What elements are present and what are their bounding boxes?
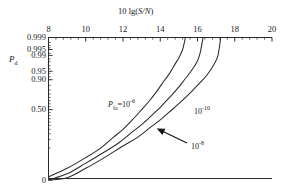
- x-axis-title: 10 lg(S/N): [118, 7, 153, 16]
- x-tick-label: 14: [148, 25, 172, 34]
- y-axis-ticks: [49, 38, 53, 181]
- pfa-1e-10-label-sup: -10: [202, 105, 210, 111]
- y-axis-title-sub: d: [15, 60, 18, 66]
- x-tick-label: 20: [260, 25, 282, 34]
- y-tick-label: 0.50: [4, 105, 46, 114]
- arrow-head: [158, 129, 165, 134]
- x-axis-title-suffix: ): [150, 6, 153, 16]
- pfa-1e-10-label-mid: 10: [194, 107, 202, 116]
- arrow-shaft: [162, 131, 187, 143]
- annotation-arrow-group: [158, 129, 187, 143]
- pfa-1e-8-label-sup: -8: [199, 140, 204, 146]
- pfa-1e-8-label-mid: 10: [191, 142, 199, 151]
- x-tick-label: 18: [223, 25, 247, 34]
- x-axis-title-prefix: 10 lg(: [118, 6, 138, 16]
- x-tick-label: 16: [186, 25, 210, 34]
- y-tick-label: 0.90: [4, 75, 46, 84]
- y-tick-label: 0: [4, 176, 46, 185]
- x-tick-label: 12: [111, 25, 135, 34]
- pfa-1e-10-label: 10-10: [194, 108, 210, 116]
- detection-probability-chart: 10 lg(S/N) Pd 8101214161820 00.500.900.9…: [0, 0, 282, 189]
- pfa-1e-6-label: Pfa=10-6: [108, 101, 135, 109]
- y-tick-label: 0.999: [4, 33, 46, 42]
- pfa-1e-6-label-mid: =10: [118, 100, 131, 109]
- x-axis-ticks: [49, 38, 273, 42]
- pfa-1e-6-label-sup: -6: [130, 98, 135, 104]
- x-tick-label: 10: [74, 25, 98, 34]
- pfa-1e-8-label: 10-8: [191, 143, 204, 151]
- y-tick-label: 0.95: [4, 67, 46, 76]
- y-tick-label: 0.995: [4, 45, 46, 54]
